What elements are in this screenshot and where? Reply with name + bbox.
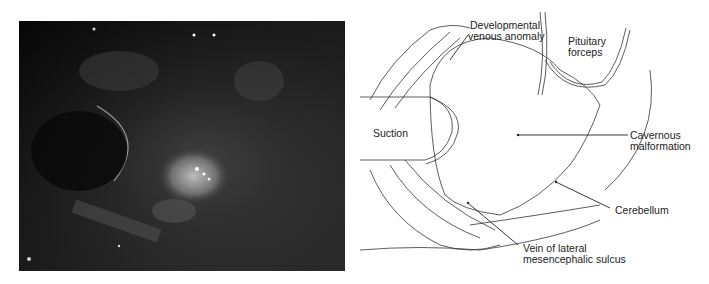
label-cerebellum: Cerebellum <box>615 205 669 216</box>
label-vein-lateral-mesencephalic-sulcus: Vein of lateral mesencephalic sulcus <box>523 243 626 265</box>
label-line: venous anomaly <box>468 31 544 42</box>
label-line: Suction <box>373 128 408 139</box>
label-line: forceps <box>568 47 606 58</box>
label-cavernous-malformation: Cavernous malformation <box>630 130 691 152</box>
surgical-illustration: Developmental venous anomaly Pituitary f… <box>360 0 709 284</box>
label-line: Cerebellum <box>615 205 669 216</box>
label-line: mesencephalic sulcus <box>523 254 626 265</box>
label-line: malformation <box>630 141 691 152</box>
label-suction: Suction <box>373 128 408 139</box>
label-pituitary-forceps: Pituitary forceps <box>568 36 606 58</box>
label-developmental-venous-anomaly: Developmental venous anomaly <box>470 20 544 42</box>
intraoperative-photo <box>19 21 345 271</box>
